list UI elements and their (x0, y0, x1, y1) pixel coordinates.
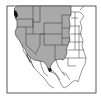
range-map (0, 0, 101, 100)
range-map-svg (0, 0, 101, 100)
